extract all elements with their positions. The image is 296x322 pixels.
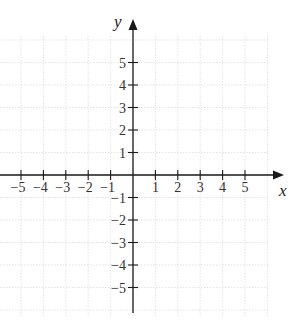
- x-tick-label: −4: [33, 180, 48, 195]
- y-tick-label: 1: [119, 146, 126, 161]
- y-tick-label: 2: [119, 123, 126, 138]
- x-tick-label: −3: [55, 180, 70, 195]
- y-axis-label: y: [112, 12, 122, 31]
- grid-lines: [0, 36, 268, 316]
- coordinate-plane: −5−4−3−2−112345 54321−1−2−3−4−5 x y: [0, 0, 296, 322]
- x-tick-label: 2: [174, 180, 181, 195]
- x-tick-label: 5: [242, 180, 249, 195]
- axes: [0, 19, 284, 313]
- x-axis-label: x: [278, 181, 287, 200]
- y-axis-arrow-icon: [129, 19, 138, 30]
- y-tick-label: −3: [111, 236, 126, 251]
- x-tick-label: 3: [197, 180, 204, 195]
- y-tick-label: 4: [119, 78, 126, 93]
- y-tick-label: −4: [111, 258, 126, 273]
- y-tick-label: −5: [111, 281, 126, 296]
- y-tick-label: 5: [119, 56, 126, 71]
- x-ticks: −5−4−3−2−112345: [11, 170, 249, 195]
- y-tick-label: −2: [111, 213, 126, 228]
- x-tick-label: −2: [78, 180, 93, 195]
- x-axis-arrow-icon: [273, 171, 284, 180]
- y-tick-label: −1: [111, 191, 126, 206]
- x-tick-label: −5: [11, 180, 26, 195]
- x-tick-label: 4: [219, 180, 226, 195]
- y-tick-label: 3: [119, 101, 126, 116]
- x-tick-label: 1: [152, 180, 159, 195]
